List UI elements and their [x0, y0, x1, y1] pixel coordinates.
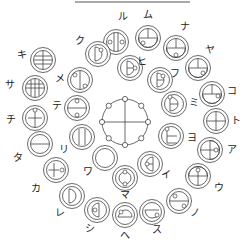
glyph-ka [44, 158, 69, 183]
label-ko: コ [227, 86, 237, 96]
glyph-shi [85, 198, 110, 223]
glyph-i [138, 152, 163, 177]
label-no: ノ [190, 208, 200, 218]
glyph-chi [23, 106, 48, 131]
glyph-mu [136, 26, 161, 51]
label-ma: マ [120, 190, 130, 200]
label-sa: サ [5, 80, 15, 90]
label-ta: タ [13, 153, 23, 163]
glyph-to [204, 109, 229, 134]
label-u: ウ [214, 183, 224, 193]
glyph-fu [148, 68, 173, 93]
label-chi: チ [6, 115, 16, 125]
label-fu: フ [170, 69, 180, 79]
label-he: ヘ [120, 231, 130, 241]
glyph-te [65, 96, 90, 121]
label-ya: ヤ [205, 45, 215, 55]
glyph-he [113, 203, 138, 228]
label-to: ト [231, 116, 241, 126]
glyph-ma [113, 166, 138, 191]
label-i: イ [161, 170, 171, 180]
label-re: レ [55, 208, 65, 218]
label-me: メ [55, 74, 65, 84]
label-wa: ワ [83, 167, 93, 177]
glyph-me [68, 68, 93, 93]
hiragana-glyph-wheel-diagram: ルムナヤコトアウノスヘシレカタチサキクメテリワマイヨミフヒ [0, 0, 251, 244]
glyph-re [60, 184, 85, 209]
glyph-ko [200, 82, 225, 107]
label-na: ナ [180, 22, 190, 32]
label-shi: シ [85, 224, 95, 234]
glyph-ku [86, 42, 111, 67]
glyph-sa [23, 76, 48, 101]
label-a: ア [227, 145, 237, 155]
label-te: テ [52, 101, 62, 111]
glyph-na [164, 36, 189, 61]
glyph-ya [186, 56, 211, 81]
glyph-a [198, 138, 223, 163]
label-ku: ク [75, 36, 85, 46]
glyph-ki [31, 48, 56, 73]
glyph-yo [159, 124, 184, 149]
glyph-no [167, 189, 192, 214]
label-ri: リ [59, 145, 69, 155]
label-su: ス [152, 225, 162, 235]
label-mu: ム [143, 10, 153, 20]
glyph-wheel-drawing [0, 0, 251, 244]
glyph-su [140, 200, 165, 225]
label-yo: ヨ [187, 133, 197, 143]
label-ka: カ [31, 184, 41, 194]
label-hi: ヒ [137, 57, 147, 67]
glyph-ta [28, 132, 53, 157]
glyph-u [186, 164, 211, 189]
label-ki: キ [17, 50, 27, 60]
center-compass-glyph [99, 96, 150, 147]
label-ru: ル [118, 12, 128, 22]
glyph-ri [70, 125, 95, 150]
glyph-mi [162, 92, 187, 117]
label-mi: ミ [189, 98, 199, 108]
glyph-wa [93, 146, 118, 171]
